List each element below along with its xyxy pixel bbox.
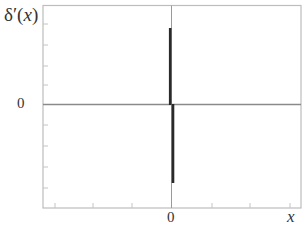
chart-plot (0, 0, 306, 229)
x-axis-label: x (287, 207, 295, 227)
y-axis-label-variable: x (23, 4, 31, 25)
x-tick-label-zero: 0 (167, 208, 175, 226)
y-tick-label-zero: 0 (17, 94, 25, 112)
y-axis-label: δ′(x) (4, 4, 38, 26)
y-axis-label-close-paren: ) (32, 4, 38, 25)
y-axis-ticks (43, 24, 48, 188)
y-axis-label-function: δ′ (4, 4, 17, 25)
